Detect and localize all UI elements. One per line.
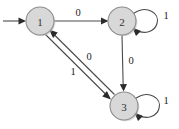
state-node-1[interactable]: 1 — [26, 7, 55, 36]
edge-1-to-3-line — [46, 35, 108, 96]
edge-label-1-to-3: 1 — [70, 66, 75, 77]
edge-2-to-3[interactable] — [120, 35, 127, 92]
edge-label-2-self: 1 — [163, 10, 168, 21]
state-node-1-label: 1 — [37, 16, 43, 28]
state-node-3[interactable]: 3 — [110, 92, 139, 121]
edge-label-1-to-2: 0 — [75, 7, 80, 18]
edge-label-3-to-1: 0 — [86, 51, 91, 62]
edge-1-to-3[interactable] — [46, 35, 112, 100]
edge-3-to-1[interactable] — [49, 30, 115, 95]
edge-3-to-1-line — [53, 34, 115, 95]
edge-1-to-2-arrowhead — [101, 17, 109, 24]
edge-1-to-2[interactable] — [54, 17, 109, 24]
edge-label-3-self: 1 — [163, 95, 168, 106]
state-diagram-figure: 2 (horizontal top) ============ --> 3 (v… — [0, 0, 179, 129]
edge-label-2-to-3: 0 — [128, 55, 133, 66]
state-node-3-label: 3 — [121, 101, 127, 113]
state-node-2-label: 2 — [119, 16, 125, 28]
edge-2-to-3-arrowhead — [120, 84, 127, 92]
start-arrow-head — [19, 17, 27, 24]
state-diagram-canvas: 2 (horizontal top) ============ --> 3 (v… — [0, 0, 179, 129]
state-node-2[interactable]: 2 — [108, 7, 137, 36]
edge-2-to-3-line — [122, 35, 123, 87]
start-arrow — [3, 17, 26, 24]
